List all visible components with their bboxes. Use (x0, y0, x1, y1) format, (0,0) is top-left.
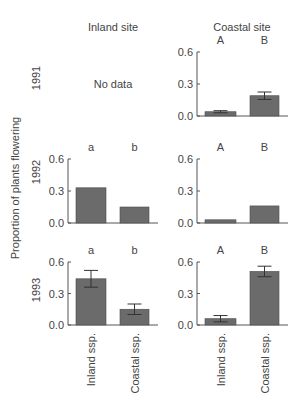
bar-coastal-ssp (250, 271, 279, 325)
no-data-label: No data (94, 78, 133, 90)
significance-letter: A (217, 141, 225, 153)
bar-inland-ssp (205, 220, 236, 223)
significance-letter: B (261, 244, 268, 256)
bar-inland-ssp (76, 188, 106, 223)
y-tick-label: 0.0 (178, 217, 193, 229)
y-tick-label: 0.6 (49, 256, 64, 268)
column-header-inland-site: Inland site (88, 21, 138, 33)
row-header-1991: 1991 (30, 66, 42, 90)
significance-letter: a (88, 244, 95, 256)
x-tick-label: Inland ssp. (85, 333, 97, 386)
y-axis-label: Proportion of plants flowering (9, 117, 21, 259)
x-tick-label: Inland ssp. (215, 333, 227, 386)
y-tick-label: 0.3 (49, 288, 64, 300)
significance-letter: b (131, 244, 137, 256)
bar-coastal-ssp (250, 206, 279, 223)
bar-chart-figure: Inland siteCoastal siteProportion of pla… (0, 0, 299, 402)
significance-letter: a (88, 141, 95, 153)
y-tick-label: 0.3 (178, 288, 193, 300)
significance-letter: A (217, 244, 225, 256)
row-header-1993: 1993 (30, 278, 42, 302)
y-tick-label: 0.3 (178, 78, 193, 90)
significance-letter: A (217, 34, 225, 46)
y-tick-label: 0.6 (178, 256, 193, 268)
x-tick-label: Coastal ssp. (129, 333, 141, 394)
y-tick-label: 0.6 (178, 153, 193, 165)
y-tick-label: 0.0 (178, 110, 193, 122)
significance-letter: B (261, 141, 268, 153)
y-tick-label: 0.0 (49, 217, 64, 229)
significance-letter: b (131, 141, 137, 153)
row-header-1992: 1992 (30, 160, 42, 184)
y-tick-label: 0.3 (178, 185, 193, 197)
y-tick-label: 0.6 (178, 46, 193, 58)
significance-letter: B (261, 34, 268, 46)
y-tick-label: 0.0 (49, 319, 64, 331)
x-tick-label: Coastal ssp. (259, 333, 271, 394)
y-tick-label: 0.3 (49, 185, 64, 197)
y-tick-label: 0.6 (49, 153, 64, 165)
y-tick-label: 0.0 (178, 319, 193, 331)
bar-coastal-ssp (120, 207, 149, 223)
column-header-coastal-site: Coastal site (213, 21, 270, 33)
